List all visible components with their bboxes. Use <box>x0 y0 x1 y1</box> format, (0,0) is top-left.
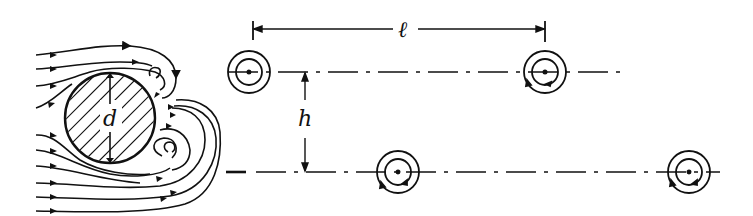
cylinder: d <box>0 50 225 190</box>
streamlines <box>36 46 220 212</box>
cylinder-diameter-label: d <box>103 106 117 131</box>
spacing-label: ℓ <box>398 17 408 42</box>
streamline <box>36 166 140 183</box>
row-gap-label: h <box>298 106 312 131</box>
vortex-street-diagram: d ℓ h <box>0 0 753 216</box>
eddy <box>164 142 174 152</box>
